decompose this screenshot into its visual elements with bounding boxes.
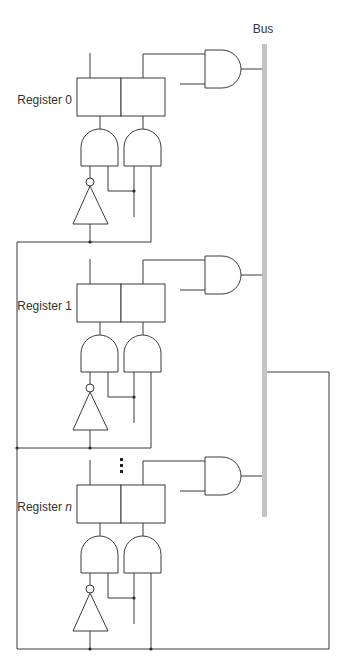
and-gate-icon [81, 335, 118, 372]
and-gate-icon [205, 50, 241, 88]
register-label-index: n [65, 500, 72, 514]
ellipsis-dot [120, 470, 123, 473]
register-cell-right [121, 284, 165, 322]
and-gate-icon [81, 129, 118, 166]
junction-dot [88, 446, 91, 449]
and-gate-icon [205, 256, 241, 294]
junction-dot [149, 647, 152, 650]
register-cell-right [121, 485, 165, 523]
register-cell-right [121, 78, 165, 116]
register-stack: Register 0Register 1Register n [17, 50, 262, 649]
ellipsis-dot [120, 464, 123, 467]
and-gate-icon [124, 129, 161, 166]
register-label: Register 0 [17, 93, 72, 107]
register-label-index: 1 [65, 299, 72, 313]
register-block: Register n [17, 457, 262, 649]
register-cell-left [77, 78, 121, 116]
not-bubble-icon [86, 384, 94, 392]
junction-dot [132, 189, 135, 192]
register-block: Register 1 [17, 256, 262, 448]
register-label-prefix: Register [17, 93, 65, 107]
ellipsis-dots [120, 458, 123, 473]
junction-dot [132, 596, 135, 599]
bus-bar [262, 44, 267, 517]
register-bus-diagram: Bus Register 0Register 1Register n [0, 0, 346, 663]
bus-label: Bus [253, 22, 274, 36]
register-label-prefix: Register [17, 299, 65, 313]
junction-dot [88, 240, 91, 243]
ellipsis-dot [120, 458, 123, 461]
not-gate-icon [73, 392, 108, 430]
not-gate-icon [73, 593, 108, 631]
not-bubble-icon [86, 585, 94, 593]
register-cell-left [77, 485, 121, 523]
not-gate-icon [73, 186, 108, 224]
register-label-prefix: Register [17, 500, 65, 514]
and-gate-icon [124, 536, 161, 573]
not-bubble-icon [86, 178, 94, 186]
junction-dot [88, 647, 91, 650]
junction-dot [132, 395, 135, 398]
register-label: Register n [17, 500, 72, 514]
register-label: Register 1 [17, 299, 72, 313]
register-block: Register 0 [17, 50, 262, 242]
register-cell-left [77, 284, 121, 322]
and-gate-icon [205, 457, 241, 495]
register-label-index: 0 [65, 93, 72, 107]
and-gate-icon [124, 335, 161, 372]
and-gate-icon [81, 536, 118, 573]
